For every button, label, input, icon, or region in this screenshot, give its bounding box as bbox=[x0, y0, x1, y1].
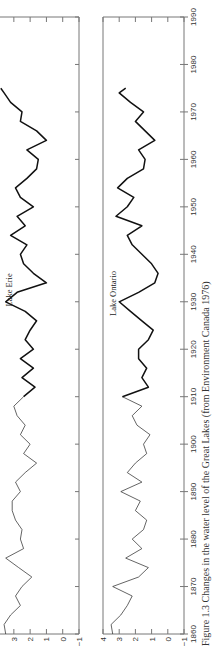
series-line bbox=[116, 88, 158, 397]
x-tick-label: 1950 bbox=[189, 197, 198, 215]
y-tick-label: 1 bbox=[42, 636, 51, 641]
x-tick-label: 1940 bbox=[189, 245, 198, 263]
y-tick-label: 0 bbox=[59, 636, 68, 641]
x-tick-label: 1930 bbox=[189, 292, 198, 310]
x-tick-label: 1870 bbox=[189, 577, 198, 595]
year-axis: 1860187018801890190019101920193019401950… bbox=[184, 8, 198, 643]
panel-lake-ontario: −101234Lake Ontario bbox=[99, 17, 189, 646]
y-tick-label: 0 bbox=[164, 636, 173, 641]
series-line bbox=[1, 88, 47, 397]
series-line bbox=[4, 397, 37, 634]
great-lakes-water-level-chart: −10123Lake Erie −101234Lake Ontario 1860… bbox=[0, 0, 215, 650]
y-tick-label: 2 bbox=[131, 636, 140, 641]
y-tick-label: −1 bbox=[75, 636, 84, 646]
rotated-figure: −10123Lake Erie −101234Lake Ontario 1860… bbox=[0, 0, 215, 650]
y-tick-label: −1 bbox=[180, 636, 189, 646]
x-tick-label: 1880 bbox=[189, 530, 198, 548]
y-tick-label: 2 bbox=[26, 636, 35, 641]
figure-caption: Figure 1.3 Changes in the water level of… bbox=[200, 281, 212, 646]
y-tick-label: 1 bbox=[148, 636, 157, 641]
y-tick-label: 3 bbox=[10, 636, 19, 641]
panel-frame bbox=[103, 17, 184, 634]
series-label: Lake Erie bbox=[4, 273, 14, 306]
x-tick-label: 1990 bbox=[189, 8, 198, 26]
x-tick-label: 1920 bbox=[189, 340, 198, 358]
x-tick-label: 1860 bbox=[189, 625, 198, 643]
y-tick-label: 4 bbox=[99, 636, 108, 641]
x-tick-label: 1900 bbox=[189, 435, 198, 453]
series-label: Lake Ontario bbox=[108, 271, 118, 316]
x-tick-label: 1890 bbox=[189, 482, 198, 500]
x-tick-label: 1960 bbox=[189, 150, 198, 168]
y-tick-label: 3 bbox=[115, 636, 124, 641]
series-line bbox=[111, 397, 150, 634]
panel-lake-erie: −10123Lake Erie bbox=[0, 17, 84, 646]
x-tick-label: 1910 bbox=[189, 387, 198, 405]
panel-frame bbox=[0, 17, 79, 634]
x-tick-label: 1970 bbox=[189, 102, 198, 120]
x-tick-label: 1980 bbox=[189, 55, 198, 73]
